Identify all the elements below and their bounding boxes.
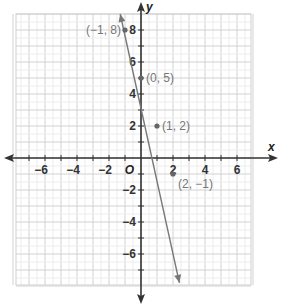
x-axis-label: x xyxy=(267,140,276,154)
coordinate-plane: −6−4−22468642−2−4−6Oxy (−1, 8)(0, 5)(1, … xyxy=(0,0,281,307)
x-tick-label: −4 xyxy=(66,163,80,177)
point-label: (0, 5) xyxy=(146,71,174,85)
x-tick-label: −6 xyxy=(34,163,48,177)
x-tick-label: 4 xyxy=(202,163,209,177)
point-marker xyxy=(138,75,143,80)
point-label: (1, 2) xyxy=(162,119,190,133)
point-marker xyxy=(170,171,175,176)
point-marker xyxy=(154,123,159,128)
point-label: (−1, 8) xyxy=(86,23,121,37)
point-marker xyxy=(122,27,127,32)
y-tick-label: 4 xyxy=(129,87,136,101)
y-tick-label: 2 xyxy=(129,119,136,133)
point-label: (2, −1) xyxy=(178,177,213,191)
y-tick-label: 8 xyxy=(129,23,136,37)
origin-label: O xyxy=(125,163,135,177)
line-top-arrow-icon xyxy=(119,14,126,23)
line-bottom-arrow-icon xyxy=(174,274,181,283)
x-tick-label: −2 xyxy=(98,163,112,177)
y-tick-label: −6 xyxy=(122,247,136,261)
y-tick-label: −2 xyxy=(122,183,136,197)
y-axis-label: y xyxy=(145,0,154,14)
x-tick-label: 6 xyxy=(234,163,241,177)
y-tick-label: −4 xyxy=(122,215,136,229)
